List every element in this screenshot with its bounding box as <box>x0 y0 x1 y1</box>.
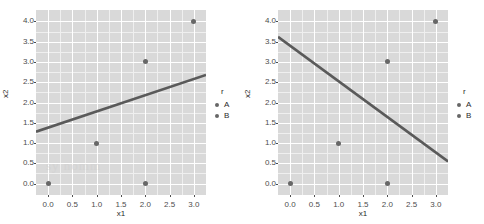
y-tick-label: 3.5 <box>246 38 276 46</box>
x-tick-mark <box>436 195 437 197</box>
data-point <box>288 181 293 186</box>
x-tick-mark <box>97 195 98 197</box>
y-tick-label: 2.0 <box>4 99 34 107</box>
legend-item-label: B <box>466 112 471 120</box>
legend-item-a[interactable]: A <box>454 99 482 110</box>
y-tick-label: 4.0 <box>4 17 34 25</box>
legend-title: r <box>221 88 240 96</box>
two-panel-scatter-figure: x2 0.00.51.01.52.02.53.03.54.0 0.00.51.0… <box>0 0 484 224</box>
data-point <box>385 181 390 186</box>
legend-item-label: A <box>224 101 229 109</box>
y-axis-ticks-right: 0.00.51.01.52.02.53.03.54.0 <box>242 0 276 224</box>
y-tick-label: 1.5 <box>4 119 34 127</box>
y-tick-label: 2.5 <box>246 78 276 86</box>
x-tick-mark <box>387 195 388 197</box>
data-point <box>336 141 341 146</box>
y-axis-ticks-left: 0.00.51.01.52.02.53.03.54.0 <box>0 0 34 224</box>
y-tick-label: 0.0 <box>246 180 276 188</box>
legend-item-b[interactable]: B <box>454 110 482 121</box>
y-tick-label: 1.0 <box>4 139 34 147</box>
legend-key-icon <box>212 100 221 109</box>
x-tick-mark <box>363 195 364 197</box>
x-tick-mark <box>314 195 315 197</box>
legend-item-label: A <box>466 101 471 109</box>
legend-item-label: B <box>224 112 229 120</box>
y-tick-label: 0.5 <box>246 159 276 167</box>
x-tick-mark <box>48 195 49 197</box>
plot-area-left <box>36 10 206 195</box>
y-tick-label: 3.0 <box>4 58 34 66</box>
scatter-panel-right: x2 0.00.51.01.52.02.53.03.54.0 0.00.51.0… <box>242 0 484 224</box>
x-axis-title: x1 <box>278 209 448 218</box>
y-tick-label: 1.5 <box>246 119 276 127</box>
x-tick-mark <box>72 195 73 197</box>
legend-key-icon <box>454 100 463 109</box>
data-point <box>143 181 148 186</box>
regression-line-left <box>36 10 206 195</box>
x-tick-mark <box>412 195 413 197</box>
x-tick-mark <box>145 195 146 197</box>
y-tick-label: 4.0 <box>246 17 276 25</box>
y-tick-label: 3.5 <box>4 38 34 46</box>
x-tick-mark <box>290 195 291 197</box>
x-axis-title: x1 <box>36 209 206 218</box>
legend-right: r A B <box>454 88 482 121</box>
y-tick-label: 1.0 <box>246 139 276 147</box>
data-point <box>46 181 51 186</box>
x-tick-mark <box>194 195 195 197</box>
legend-key-icon <box>212 111 221 120</box>
x-tick-label: 3.0 <box>179 201 209 209</box>
y-tick-label: 3.0 <box>246 58 276 66</box>
x-tick-label: 3.0 <box>421 201 451 209</box>
y-tick-label: 0.5 <box>4 159 34 167</box>
y-tick-label: 2.5 <box>4 78 34 86</box>
legend-key-icon <box>454 111 463 120</box>
y-tick-label: 2.0 <box>246 99 276 107</box>
regression-line-right <box>278 10 448 195</box>
x-tick-mark <box>339 195 340 197</box>
x-tick-mark <box>170 195 171 197</box>
plot-area-right <box>278 10 448 195</box>
scatter-panel-left: x2 0.00.51.01.52.02.53.03.54.0 0.00.51.0… <box>0 0 242 224</box>
legend-left: r A B <box>212 88 240 121</box>
y-tick-label: 0.0 <box>4 180 34 188</box>
legend-title: r <box>463 88 482 96</box>
legend-item-b[interactable]: B <box>212 110 240 121</box>
x-tick-mark <box>121 195 122 197</box>
data-point <box>94 141 99 146</box>
legend-item-a[interactable]: A <box>212 99 240 110</box>
